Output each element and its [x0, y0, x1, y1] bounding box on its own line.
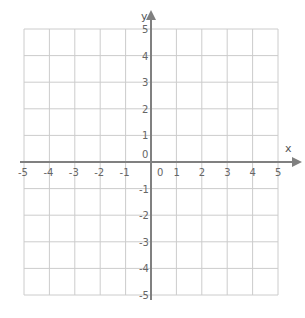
x-tick-label: 1: [173, 167, 179, 178]
x-axis-label: x: [285, 142, 292, 155]
x-tick-label: -5: [18, 167, 28, 178]
y-tick-label: -1: [139, 184, 149, 195]
x-tick-label: 4: [250, 167, 256, 178]
axes: [20, 10, 302, 300]
x-tick-label: -3: [69, 167, 79, 178]
x-tick-label: 5: [275, 167, 281, 178]
y-tick-label: -2: [139, 210, 149, 221]
x-tick-label: -2: [94, 167, 104, 178]
y-tick-label: 1: [142, 130, 148, 141]
y-tick-label: 4: [142, 51, 148, 62]
tick-labels: xy-5-4-3-2-1012345543210-1-2-3-4-5: [18, 10, 292, 301]
coordinate-plane: xy-5-4-3-2-1012345543210-1-2-3-4-5: [0, 0, 305, 318]
x-tick-label: -1: [120, 167, 130, 178]
x-tick-label: 0: [157, 167, 163, 178]
y-tick-label: 5: [142, 24, 148, 35]
y-tick-label: -5: [139, 290, 149, 301]
y-tick-label: 0: [142, 149, 148, 160]
x-axis-arrow-icon: [292, 157, 302, 167]
x-tick-label: -4: [43, 167, 53, 178]
y-axis-label: y: [141, 10, 148, 23]
y-tick-label: -3: [139, 237, 149, 248]
y-tick-label: -4: [139, 263, 149, 274]
y-tick-label: 2: [142, 104, 148, 115]
x-tick-label: 2: [199, 167, 205, 178]
y-tick-label: 3: [142, 77, 148, 88]
x-tick-label: 3: [224, 167, 230, 178]
